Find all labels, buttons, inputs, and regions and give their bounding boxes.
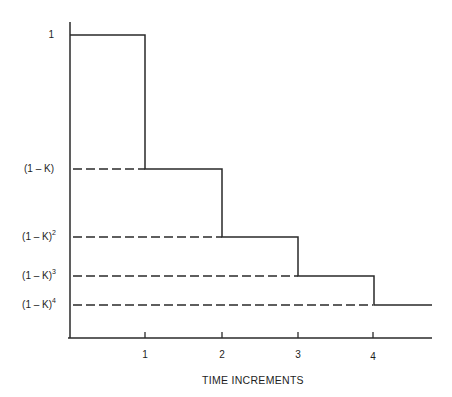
x-axis-title: TIME INCREMENTS <box>202 374 304 386</box>
x-tick-label-1: 1 <box>135 349 155 361</box>
y-tick-label-1-K-3: (1 – K)3 <box>6 270 56 282</box>
y-tick-label-1-K: (1 – K) <box>4 163 54 175</box>
x-tick-label-4: 4 <box>363 351 383 363</box>
y-tick-label-1-K-2: (1 – K)2 <box>6 231 56 243</box>
step-series-line <box>70 35 432 305</box>
x-tick-label-3: 3 <box>288 349 308 361</box>
y-tick-label-1: 1 <box>4 29 54 41</box>
y-tick-label-1-K-4: (1 – K)4 <box>6 299 56 311</box>
x-tick-label-2: 2 <box>212 349 232 361</box>
chart-canvas <box>0 0 452 397</box>
